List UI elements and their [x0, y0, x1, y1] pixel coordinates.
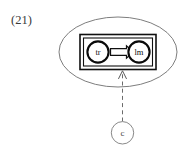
node-tr-label: tr: [95, 47, 100, 57]
node-lm: lm: [128, 41, 149, 62]
figure-container: (21) tr lm c: [0, 0, 193, 150]
node-c-label: c: [121, 128, 125, 138]
node-lm-label: lm: [135, 47, 144, 57]
diagram-canvas: (21) tr lm c: [0, 0, 193, 150]
node-c: c: [111, 122, 133, 144]
edge-c-to-frame: [119, 71, 127, 122]
node-tr: tr: [87, 41, 108, 62]
figure-number-label: (21): [11, 13, 32, 27]
